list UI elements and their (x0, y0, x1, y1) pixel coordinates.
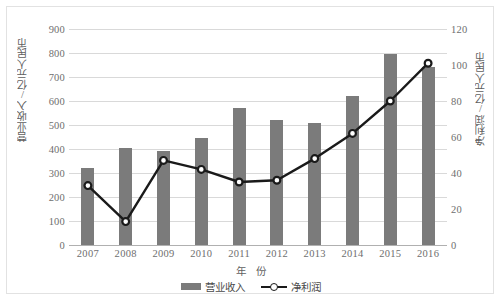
chart-container: 营业收入/亿元人民币 净利润/亿元人民币 0100200300400500600… (6, 6, 494, 294)
y-axis-left-tick-label: 600 (31, 96, 65, 107)
line-markers (85, 60, 432, 225)
line-marker-2012 (274, 177, 281, 184)
x-axis-tick-label-2010: 2010 (190, 248, 212, 259)
bar-swatch-icon (181, 283, 201, 290)
x-axis-ticks: 2007200820092010201120122013201420152016 (69, 248, 447, 264)
legend-label-line: 净利润 (291, 279, 321, 294)
x-axis-tick-label-2011: 2011 (228, 248, 250, 259)
line-marker-2014 (349, 130, 356, 137)
x-axis-tick-label-2008: 2008 (115, 248, 137, 259)
x-axis-tick-label-2014: 2014 (341, 248, 363, 259)
x-axis-line (69, 245, 447, 246)
y-axis-right-ticks: 020406080100120 (451, 29, 485, 245)
y-axis-left-tick-label: 900 (31, 24, 65, 35)
x-axis-tick-label-2012: 2012 (266, 248, 288, 259)
x-axis-tick-label-2009: 2009 (152, 248, 174, 259)
x-axis-title: 年 份 (7, 263, 495, 278)
line-path (88, 63, 428, 221)
y-axis-left-tick-label: 100 (31, 216, 65, 227)
y-axis-left-tick-label: 200 (31, 192, 65, 203)
x-axis-tick-label-2007: 2007 (77, 248, 99, 259)
y-axis-right-tick-label: 100 (451, 60, 481, 71)
line-marker-2016 (425, 60, 432, 67)
line-swatch-marker-icon (270, 283, 278, 291)
y-axis-left-tick-label: 800 (31, 48, 65, 59)
x-axis-tick-label-2013: 2013 (304, 248, 326, 259)
y-axis-left-tick-label: 500 (31, 120, 65, 131)
line-swatch-icon (261, 282, 287, 291)
y-axis-right-tick-label: 0 (451, 240, 481, 251)
line-marker-2013 (311, 155, 318, 162)
y-axis-left-tick-label: 0 (31, 240, 65, 251)
line-series (69, 29, 447, 245)
y-axis-left-tick-label: 300 (31, 168, 65, 179)
y-axis-left-tick-label: 400 (31, 144, 65, 155)
x-axis-tick-label-2016: 2016 (417, 248, 439, 259)
plot-area (69, 29, 447, 245)
legend-item-bar[interactable]: 营业收入 (181, 279, 245, 294)
line-marker-2010 (198, 166, 205, 173)
y-axis-right-tick-label: 20 (451, 204, 481, 215)
y-axis-left-ticks: 0100200300400500600700800900 (25, 29, 65, 245)
y-axis-right-tick-label: 60 (451, 132, 481, 143)
y-axis-right-tick-label: 120 (451, 24, 481, 35)
legend-label-bar: 营业收入 (205, 279, 245, 294)
legend-item-line[interactable]: 净利润 (261, 279, 321, 294)
line-marker-2015 (387, 98, 394, 105)
line-marker-2011 (236, 179, 243, 186)
line-marker-2007 (85, 182, 92, 189)
line-marker-2009 (160, 157, 167, 164)
y-axis-left-tick-label: 700 (31, 72, 65, 83)
x-axis-tick-label-2015: 2015 (379, 248, 401, 259)
line-marker-2008 (122, 218, 129, 225)
y-axis-right-tick-label: 80 (451, 96, 481, 107)
chart-legend: 营业收入 净利润 (7, 279, 495, 294)
y-axis-right-tick-label: 40 (451, 168, 481, 179)
